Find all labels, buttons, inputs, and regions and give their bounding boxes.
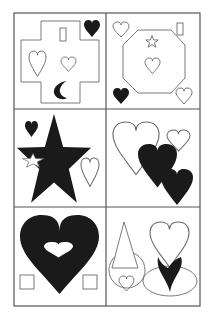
heart-outline-center-icon xyxy=(145,58,160,74)
heart-filled-small-icon xyxy=(25,121,38,137)
heart-outline-bottomright-icon xyxy=(176,88,192,104)
heart-outline-small-icon xyxy=(61,57,76,71)
puzzle-figure xyxy=(0,0,213,320)
panel-bottom-right xyxy=(109,222,197,296)
heart-outline-topleft-icon xyxy=(113,22,129,37)
triangle-outline xyxy=(112,222,138,268)
panel-middle-right xyxy=(113,122,193,205)
heart-filled-icon xyxy=(84,20,100,37)
square-outline xyxy=(83,275,97,289)
crescent-filled-icon xyxy=(54,81,67,99)
rectangle-outline xyxy=(177,23,183,35)
panel-top-right xyxy=(113,22,192,104)
heart-filled-icon xyxy=(161,169,193,205)
heart-outline-icon xyxy=(150,222,189,267)
heart-outline-small-icon xyxy=(119,276,134,291)
panel-bottom-left xyxy=(20,215,99,294)
rectangle-outline xyxy=(60,28,66,41)
heart-outline-tall-icon xyxy=(81,158,99,187)
star-outline-icon xyxy=(146,36,158,48)
heart-outline-large-icon xyxy=(29,51,46,77)
square-outline xyxy=(20,275,34,289)
panel-top-left xyxy=(21,20,100,103)
panel-middle-left xyxy=(17,114,99,203)
heart-filled-icon xyxy=(113,88,129,104)
